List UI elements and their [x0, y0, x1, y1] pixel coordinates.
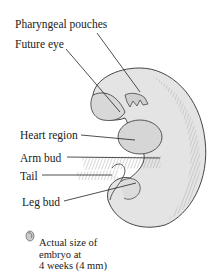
- caption-line-2: embryo at: [39, 249, 107, 261]
- caption-line-3: 4 weeks (4 mm): [39, 260, 107, 272]
- label-heart-region: Heart region: [20, 129, 78, 141]
- label-tail: Tail: [20, 170, 38, 182]
- caption-line-1: Actual size of: [39, 237, 107, 249]
- label-future-eye: Future eye: [15, 38, 64, 50]
- heart-region: [118, 120, 162, 154]
- label-arm-bud: Arm bud: [20, 152, 61, 164]
- small-embryo-icon: [26, 231, 34, 241]
- actual-size-caption: Actual size of embryo at 4 weeks (4 mm): [39, 237, 107, 272]
- label-pharyngeal-pouches: Pharyngeal pouches: [15, 18, 107, 30]
- label-leg-bud: Leg bud: [22, 196, 60, 208]
